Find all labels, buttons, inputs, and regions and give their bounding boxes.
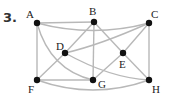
vertex-B — [91, 19, 97, 25]
vertex-E — [120, 50, 126, 56]
vertex-label-A: A — [26, 8, 34, 20]
vertex-label-B: B — [89, 5, 96, 17]
vertex-label-G: G — [98, 78, 106, 90]
vertex-G — [90, 77, 96, 83]
edge-B-G — [93, 22, 94, 80]
edge-B-D — [65, 22, 94, 53]
vertex-label-H: H — [152, 83, 160, 95]
vertex-label-E: E — [119, 58, 126, 70]
graph-diagram: ABCDEFGH — [0, 0, 169, 100]
vertex-label-F: F — [28, 83, 34, 95]
edge-D-F — [37, 53, 65, 80]
vertex-A — [34, 20, 40, 26]
vertex-label-D: D — [56, 40, 64, 52]
vertex-label-C: C — [151, 8, 158, 20]
edge-A-B — [37, 22, 94, 23]
vertex-C — [146, 20, 152, 26]
edge-B-E — [94, 22, 123, 53]
edge-E-H — [123, 53, 149, 80]
vertex-F — [34, 77, 40, 83]
